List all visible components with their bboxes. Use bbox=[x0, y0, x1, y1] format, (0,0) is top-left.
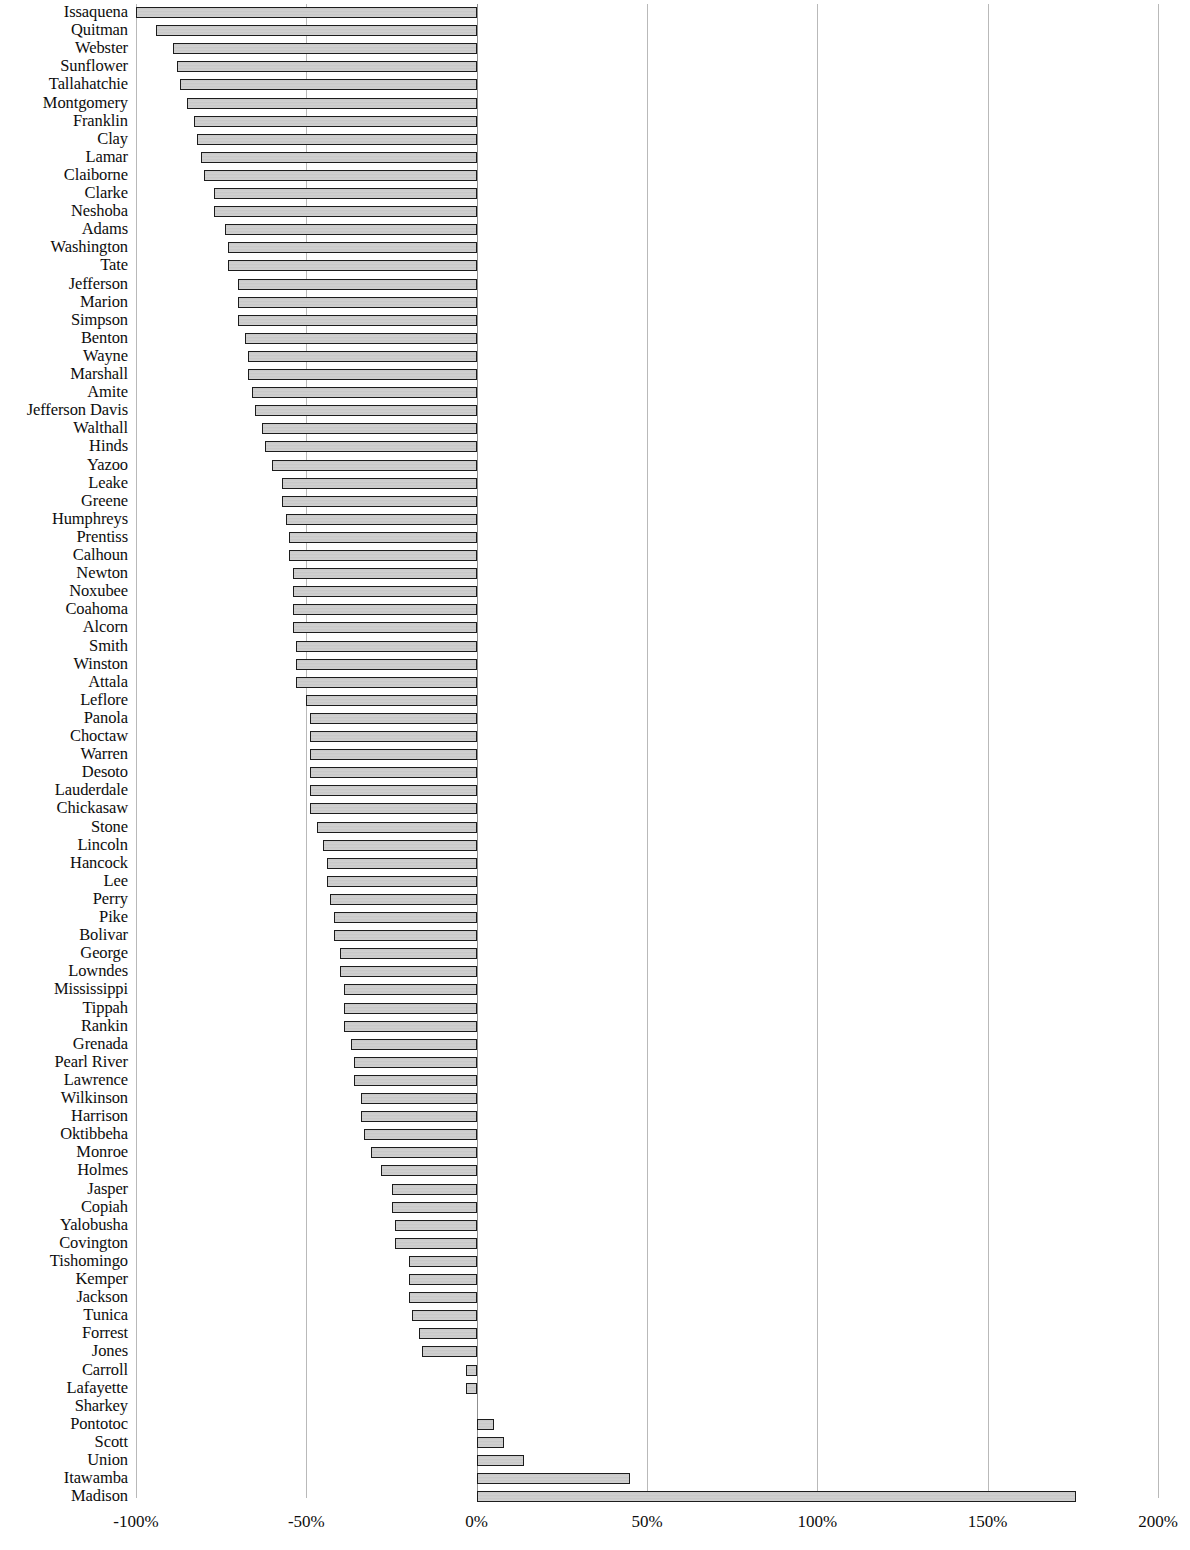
bar bbox=[327, 876, 477, 887]
bar-row bbox=[136, 22, 1158, 40]
bar-row bbox=[136, 855, 1158, 873]
bar-row bbox=[136, 891, 1158, 909]
bar bbox=[228, 242, 477, 253]
bar bbox=[344, 984, 477, 995]
bar-row bbox=[136, 257, 1158, 275]
category-label: Washington bbox=[51, 238, 128, 255]
bar-row bbox=[136, 1162, 1158, 1180]
bar bbox=[361, 1093, 477, 1104]
bar-row bbox=[136, 746, 1158, 764]
bar-row bbox=[136, 239, 1158, 257]
bar bbox=[272, 460, 476, 471]
bar bbox=[317, 822, 477, 833]
bar-row bbox=[136, 58, 1158, 76]
category-label: Pontotoc bbox=[70, 1415, 128, 1432]
bar-row bbox=[136, 927, 1158, 945]
bar bbox=[395, 1220, 477, 1231]
bar bbox=[177, 61, 477, 72]
category-label: Issaquena bbox=[64, 3, 128, 20]
bar-row bbox=[136, 493, 1158, 511]
x-axis: -100%-50%0%50%100%150%200% bbox=[136, 1500, 1158, 1550]
bar-row bbox=[136, 312, 1158, 330]
bar-row bbox=[136, 764, 1158, 782]
category-label: Yazoo bbox=[87, 456, 128, 473]
bar-row bbox=[136, 1380, 1158, 1398]
bar-row bbox=[136, 294, 1158, 312]
bar-row bbox=[136, 76, 1158, 94]
bar-chart: IssaquenaQuitmanWebsterSunflowerTallahat… bbox=[0, 0, 1190, 1550]
category-label: Union bbox=[87, 1451, 128, 1468]
bar bbox=[282, 496, 476, 507]
x-tick-label: -100% bbox=[113, 1512, 158, 1532]
category-label: Harrison bbox=[71, 1107, 128, 1124]
bar bbox=[340, 948, 476, 959]
bar bbox=[334, 930, 477, 941]
bar bbox=[293, 604, 477, 615]
category-label: Jones bbox=[92, 1342, 128, 1359]
category-label: Montgomery bbox=[43, 94, 128, 111]
bar bbox=[245, 333, 477, 344]
bar bbox=[344, 1021, 477, 1032]
category-label: Webster bbox=[75, 39, 128, 56]
bar bbox=[409, 1274, 477, 1285]
bar bbox=[255, 405, 476, 416]
bar bbox=[354, 1075, 477, 1086]
category-label: Amite bbox=[87, 383, 128, 400]
bar-row bbox=[136, 945, 1158, 963]
bar-row bbox=[136, 384, 1158, 402]
bar bbox=[310, 803, 477, 814]
bar bbox=[296, 677, 477, 688]
category-label: Hinds bbox=[89, 437, 128, 454]
bar bbox=[327, 858, 477, 869]
bar bbox=[361, 1111, 477, 1122]
bar bbox=[422, 1346, 477, 1357]
bar-row bbox=[136, 420, 1158, 438]
bar bbox=[310, 749, 477, 760]
category-label: Wayne bbox=[83, 347, 128, 364]
bar bbox=[262, 423, 477, 434]
bar-row bbox=[136, 1307, 1158, 1325]
gridline-200 bbox=[1158, 4, 1159, 1498]
bar-row bbox=[136, 1289, 1158, 1307]
category-label: Clay bbox=[97, 130, 128, 147]
bar-row bbox=[136, 366, 1158, 384]
category-label: Quitman bbox=[71, 21, 128, 38]
category-label: Smith bbox=[89, 637, 128, 654]
bar-row bbox=[136, 1434, 1158, 1452]
bar bbox=[466, 1383, 476, 1394]
category-label: Prentiss bbox=[77, 528, 128, 545]
category-label: Carroll bbox=[82, 1361, 128, 1378]
category-label: Attala bbox=[88, 673, 128, 690]
bar-row bbox=[136, 619, 1158, 637]
bar-row bbox=[136, 873, 1158, 891]
bar bbox=[477, 1419, 494, 1430]
bar bbox=[204, 170, 477, 181]
bar bbox=[310, 731, 477, 742]
bar-row bbox=[136, 710, 1158, 728]
bar bbox=[187, 98, 477, 109]
bar bbox=[225, 224, 477, 235]
bar-row bbox=[136, 1452, 1158, 1470]
category-label: Oktibbeha bbox=[60, 1125, 128, 1142]
bar bbox=[293, 568, 477, 579]
category-label: Lee bbox=[104, 872, 128, 889]
bar bbox=[409, 1292, 477, 1303]
bar bbox=[286, 514, 477, 525]
bar-row bbox=[136, 782, 1158, 800]
bar-row bbox=[136, 728, 1158, 746]
bar-row bbox=[136, 1181, 1158, 1199]
category-label: Madison bbox=[71, 1487, 128, 1504]
category-label: Wilkinson bbox=[61, 1089, 128, 1106]
category-label: Neshoba bbox=[71, 202, 128, 219]
bar-row bbox=[136, 1325, 1158, 1343]
bar-row bbox=[136, 565, 1158, 583]
category-label: Claiborne bbox=[64, 166, 128, 183]
bar-row bbox=[136, 1235, 1158, 1253]
bar bbox=[371, 1147, 477, 1158]
bar bbox=[477, 1437, 504, 1448]
bar bbox=[293, 586, 477, 597]
category-label: Humphreys bbox=[52, 510, 128, 527]
category-label: Simpson bbox=[71, 311, 128, 328]
category-label: Grenada bbox=[73, 1035, 128, 1052]
bar bbox=[334, 912, 477, 923]
